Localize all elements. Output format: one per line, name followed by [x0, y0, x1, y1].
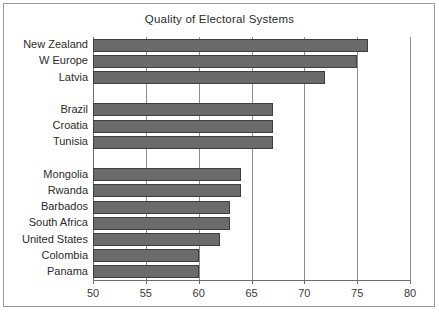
x-tick-mark-70 — [304, 281, 305, 284]
y-axis-label: Panama — [0, 265, 88, 277]
chart-figure: Quality of Electoral Systems 50556065707… — [0, 0, 439, 314]
y-axis-label: Mongolia — [0, 168, 88, 180]
y-axis-label: Rwanda — [0, 184, 88, 196]
plot-area — [93, 37, 410, 280]
bar — [93, 184, 241, 197]
x-tick-label-65: 65 — [232, 287, 272, 299]
x-tick-mark-60 — [199, 281, 200, 284]
bar — [93, 71, 325, 84]
bar — [93, 217, 230, 230]
bar — [93, 233, 220, 246]
y-axis-label: United States — [0, 233, 88, 245]
y-axis-label: Latvia — [0, 71, 88, 83]
x-tick-mark-80 — [410, 281, 411, 284]
x-tick-label-50: 50 — [73, 287, 113, 299]
bar — [93, 39, 368, 52]
y-axis-label: Barbados — [0, 200, 88, 212]
x-tick-label-70: 70 — [284, 287, 324, 299]
bar — [93, 136, 273, 149]
x-tick-label-75: 75 — [337, 287, 377, 299]
y-axis-label: Brazil — [0, 103, 88, 115]
x-tick-mark-50 — [93, 281, 94, 284]
x-tick-label-60: 60 — [179, 287, 219, 299]
bar — [93, 120, 273, 133]
bar — [93, 168, 241, 181]
x-tick-mark-65 — [252, 281, 253, 284]
gridline-75 — [357, 37, 358, 280]
y-axis-label: New Zealand — [0, 38, 88, 50]
y-axis-label: Croatia — [0, 119, 88, 131]
y-axis-label: Colombia — [0, 249, 88, 261]
x-tick-mark-75 — [357, 281, 358, 284]
bar — [93, 201, 230, 214]
x-tick-label-55: 55 — [126, 287, 166, 299]
x-tick-mark-55 — [146, 281, 147, 284]
bar — [93, 103, 273, 116]
gridline-80 — [410, 37, 411, 280]
bar — [93, 55, 357, 68]
x-tick-label-80: 80 — [390, 287, 430, 299]
y-axis-label: Tunisia — [0, 135, 88, 147]
y-axis-label: South Africa — [0, 216, 88, 228]
chart-title: Quality of Electoral Systems — [0, 13, 439, 25]
bar — [93, 265, 199, 278]
y-axis-label: W Europe — [0, 54, 88, 66]
bar — [93, 249, 199, 262]
